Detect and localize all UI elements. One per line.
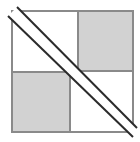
top-right-shaded-square	[78, 11, 133, 71]
figure-root	[0, 0, 140, 142]
geometry-figure	[0, 0, 140, 142]
bottom-left-shaded-square	[12, 72, 70, 132]
